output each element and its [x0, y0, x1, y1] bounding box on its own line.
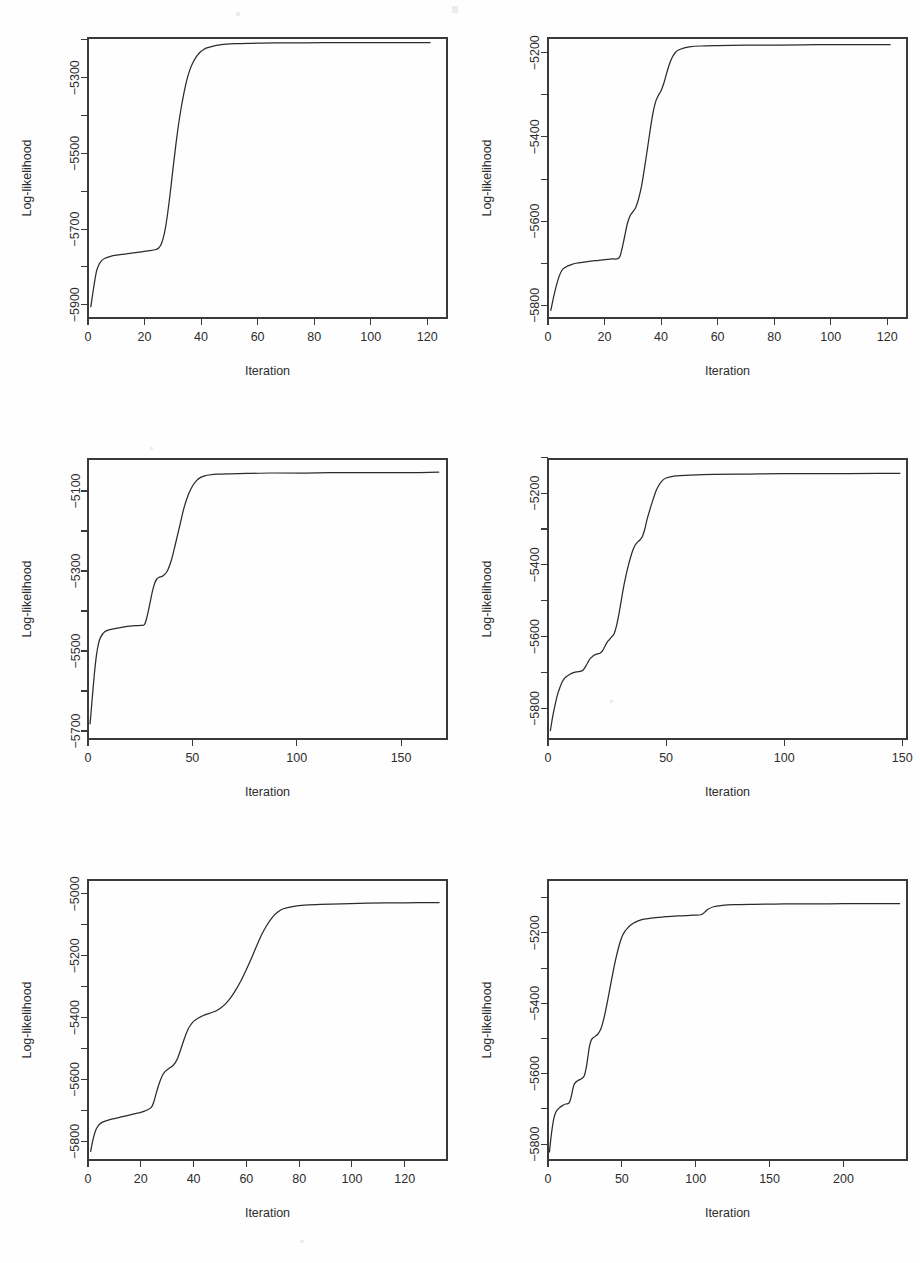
x-axis: 020406080100120 — [85, 1160, 416, 1186]
plot-frame — [548, 459, 907, 739]
y-axis-title: Log-likelihood — [20, 981, 34, 1058]
scan-speck — [452, 6, 458, 13]
x-axis-title: Iteration — [245, 785, 290, 799]
y-tick-label: −5400 — [529, 119, 543, 154]
chart-panel-middle-right: 050100150−5800−5600−5400−5200IterationLo… — [460, 421, 920, 842]
y-tick-label: −5200 — [529, 35, 543, 70]
y-tick-label: −5800 — [529, 288, 543, 323]
y-axis: −5800−5600−5400−5200 — [529, 35, 549, 323]
y-tick-label: −5500 — [69, 633, 83, 668]
x-axis-title: Iteration — [705, 364, 750, 378]
panel-grid: 020406080100120−5900−5700−5500−5300Itera… — [0, 0, 920, 1263]
y-tick-label: −5200 — [529, 476, 543, 511]
x-tick-label: 150 — [892, 751, 913, 765]
plot-frame — [548, 880, 907, 1160]
x-tick-label: 0 — [545, 330, 552, 344]
plot-frame — [88, 880, 447, 1160]
x-axis-title: Iteration — [245, 364, 290, 378]
x-tick-label: 60 — [711, 330, 725, 344]
x-tick-label: 80 — [767, 330, 781, 344]
scan-speck — [610, 700, 613, 703]
x-tick-label: 40 — [654, 330, 668, 344]
y-tick-label: −5600 — [529, 1056, 543, 1091]
chart-panel-bottom-right: 050100150200−5800−5600−5400−5200Iteratio… — [460, 842, 920, 1263]
y-axis-title: Log-likelihood — [20, 560, 34, 637]
log-likelihood-curve — [551, 45, 890, 311]
x-tick-label: 100 — [286, 751, 307, 765]
log-likelihood-curve — [90, 472, 439, 724]
chart-panel-middle-left: 050100150−5700−5500−5300−5100IterationLo… — [0, 421, 460, 842]
x-tick-label: 0 — [545, 1172, 552, 1186]
y-tick-label: −5600 — [529, 204, 543, 239]
y-tick-label: −5000 — [69, 876, 83, 911]
y-axis-title: Log-likelihood — [480, 139, 494, 216]
x-axis-title: Iteration — [705, 1206, 750, 1220]
x-axis: 050100150 — [545, 739, 913, 765]
x-tick-label: 120 — [877, 330, 898, 344]
chart-svg: 050100150−5800−5600−5400−5200IterationLo… — [460, 421, 920, 842]
x-tick-label: 100 — [685, 1172, 706, 1186]
y-tick-label: −5300 — [69, 553, 83, 588]
y-tick-label: −5700 — [69, 713, 83, 748]
scan-speck — [150, 447, 153, 450]
y-tick-label: −5600 — [69, 1062, 83, 1097]
x-tick-label: 150 — [391, 751, 412, 765]
x-tick-label: 80 — [307, 330, 321, 344]
log-likelihood-curve — [549, 904, 899, 1152]
y-tick-label: −5200 — [529, 915, 543, 950]
y-axis: −5800−5600−5400−5200 — [529, 898, 549, 1162]
x-tick-label: 120 — [417, 330, 438, 344]
x-tick-label: 40 — [187, 1172, 201, 1186]
x-axis: 020406080100120 — [85, 318, 438, 344]
chart-panel-bottom-left: 020406080100120−5800−5600−5400−5200−5000… — [0, 842, 460, 1263]
x-axis: 050100150200 — [545, 1160, 854, 1186]
y-tick-label: −5900 — [69, 287, 83, 322]
x-tick-label: 50 — [185, 751, 199, 765]
y-axis-title: Log-likelihood — [480, 560, 494, 637]
x-tick-label: 100 — [774, 751, 795, 765]
x-axis-title: Iteration — [245, 1206, 290, 1220]
y-axis: −5800−5600−5400−5200 — [529, 457, 549, 726]
y-tick-label: −5400 — [69, 1000, 83, 1035]
x-tick-label: 40 — [194, 330, 208, 344]
scan-speck — [300, 1240, 304, 1243]
y-axis: −5900−5700−5500−5300 — [69, 40, 89, 322]
x-tick-label: 0 — [85, 330, 92, 344]
x-tick-label: 20 — [598, 330, 612, 344]
chart-svg: 020406080100120−5900−5700−5500−5300Itera… — [0, 0, 460, 421]
y-axis: −5800−5600−5400−5200−5000 — [69, 876, 89, 1159]
figure-sheet: 020406080100120−5900−5700−5500−5300Itera… — [0, 0, 920, 1263]
x-tick-label: 100 — [820, 330, 841, 344]
x-tick-label: 80 — [292, 1172, 306, 1186]
x-tick-label: 100 — [342, 1172, 363, 1186]
x-tick-label: 150 — [759, 1172, 780, 1186]
log-likelihood-curve — [91, 903, 439, 1152]
chart-panel-top-left: 020406080100120−5900−5700−5500−5300Itera… — [0, 0, 460, 421]
chart-panel-top-right: 020406080100120−5800−5600−5400−5200Itera… — [460, 0, 920, 421]
x-tick-label: 0 — [85, 751, 92, 765]
y-tick-label: −5400 — [529, 986, 543, 1021]
plot-frame — [88, 38, 447, 318]
chart-svg: 050100150200−5800−5600−5400−5200Iteratio… — [460, 842, 920, 1263]
x-tick-label: 20 — [134, 1172, 148, 1186]
y-tick-label: −5100 — [69, 473, 83, 508]
x-tick-label: 120 — [394, 1172, 415, 1186]
x-tick-label: 0 — [545, 751, 552, 765]
y-tick-label: −5200 — [69, 938, 83, 973]
y-tick-label: −5700 — [69, 211, 83, 246]
chart-svg: 050100150−5700−5500−5300−5100IterationLo… — [0, 421, 460, 842]
y-axis: −5700−5500−5300−5100 — [69, 473, 89, 748]
x-axis: 020406080100120 — [545, 318, 898, 344]
y-axis-title: Log-likelihood — [480, 981, 494, 1058]
x-tick-label: 200 — [833, 1172, 854, 1186]
scan-speck — [236, 12, 240, 16]
y-tick-label: −5400 — [529, 547, 543, 582]
plot-frame — [548, 38, 907, 318]
x-axis: 050100150 — [85, 739, 412, 765]
plot-frame — [88, 459, 447, 739]
x-tick-label: 50 — [615, 1172, 629, 1186]
log-likelihood-curve — [91, 43, 430, 307]
x-tick-label: 0 — [85, 1172, 92, 1186]
chart-svg: 020406080100120−5800−5600−5400−5200Itera… — [460, 0, 920, 421]
x-tick-label: 60 — [239, 1172, 253, 1186]
